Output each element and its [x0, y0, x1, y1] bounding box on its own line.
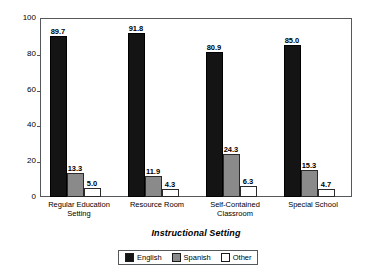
bar-value-label: 6.3: [243, 178, 253, 186]
legend-item-english[interactable]: English: [125, 253, 162, 262]
bar-english: 80.9: [206, 52, 223, 197]
bar-group: 85.015.34.7: [284, 18, 335, 197]
y-tick-label: 0: [14, 193, 36, 201]
x-category-label: Self-ContainedClassroom: [190, 200, 280, 218]
bar-english: 91.8: [128, 33, 145, 197]
x-category-label: Special School: [268, 200, 358, 209]
bar-value-label: 91.8: [129, 25, 144, 33]
bar-english: 85.0: [284, 45, 301, 197]
x-category-label-line: Special School: [268, 200, 358, 209]
bar-value-label: 80.9: [207, 44, 222, 52]
x-category-label-line: Classroom: [190, 209, 280, 218]
x-category-label-line: Setting: [34, 209, 124, 218]
bar-other: 5.0: [84, 188, 101, 197]
y-tick-label: 60: [14, 86, 36, 94]
bar-value-label: 89.7: [51, 28, 66, 36]
bar-value-label: 24.3: [224, 146, 239, 154]
bar-value-label: 5.0: [87, 180, 97, 188]
bars-layer: 89.713.35.091.811.94.380.924.36.385.015.…: [40, 18, 352, 197]
legend-swatch-icon: [125, 253, 134, 262]
legend-swatch-icon: [172, 253, 181, 262]
x-category-label-line: Self-Contained: [190, 200, 280, 209]
bar-group: 89.713.35.0: [50, 18, 101, 197]
chart-legend: EnglishSpanishOther: [118, 250, 258, 265]
x-category-label: Regular EducationSetting: [34, 200, 124, 218]
legend-label: English: [137, 253, 162, 262]
x-axis-category-labels: Regular EducationSettingResource RoomSel…: [40, 200, 352, 226]
legend-label: Other: [233, 253, 252, 262]
bar-other: 4.3: [162, 189, 179, 197]
legend-item-spanish[interactable]: Spanish: [172, 253, 211, 262]
bar-group: 91.811.94.3: [128, 18, 179, 197]
bar-chart: Percentage within Setting 100806040200 8…: [0, 0, 365, 271]
bar-english: 89.7: [50, 36, 67, 197]
x-axis-title: Instructional Setting: [40, 228, 352, 238]
y-tick-label: 40: [14, 121, 36, 129]
y-tick-label: 20: [14, 157, 36, 165]
bar-spanish: 24.3: [223, 154, 240, 197]
bar-spanish: 15.3: [301, 170, 318, 197]
legend-item-other[interactable]: Other: [221, 253, 252, 262]
bar-other: 6.3: [240, 186, 257, 197]
bar-spanish: 11.9: [145, 176, 162, 197]
x-category-label-line: Regular Education: [34, 200, 124, 209]
bar-value-label: 4.7: [321, 181, 331, 189]
y-axis-tick-labels: 100806040200: [10, 0, 36, 271]
bar-value-label: 4.3: [165, 181, 175, 189]
y-tick-label: 80: [14, 50, 36, 58]
bar-value-label: 15.3: [302, 162, 317, 170]
bar-spanish: 13.3: [67, 173, 84, 197]
bar-other: 4.7: [318, 189, 335, 197]
bar-value-label: 11.9: [146, 168, 160, 176]
legend-label: Spanish: [184, 253, 211, 262]
legend-swatch-icon: [221, 253, 230, 262]
bar-group: 80.924.36.3: [206, 18, 257, 197]
bar-value-label: 13.3: [68, 165, 83, 173]
x-category-label-line: Resource Room: [112, 200, 202, 209]
x-category-label: Resource Room: [112, 200, 202, 209]
bar-value-label: 85.0: [285, 37, 300, 45]
y-tick-label: 100: [14, 14, 36, 22]
